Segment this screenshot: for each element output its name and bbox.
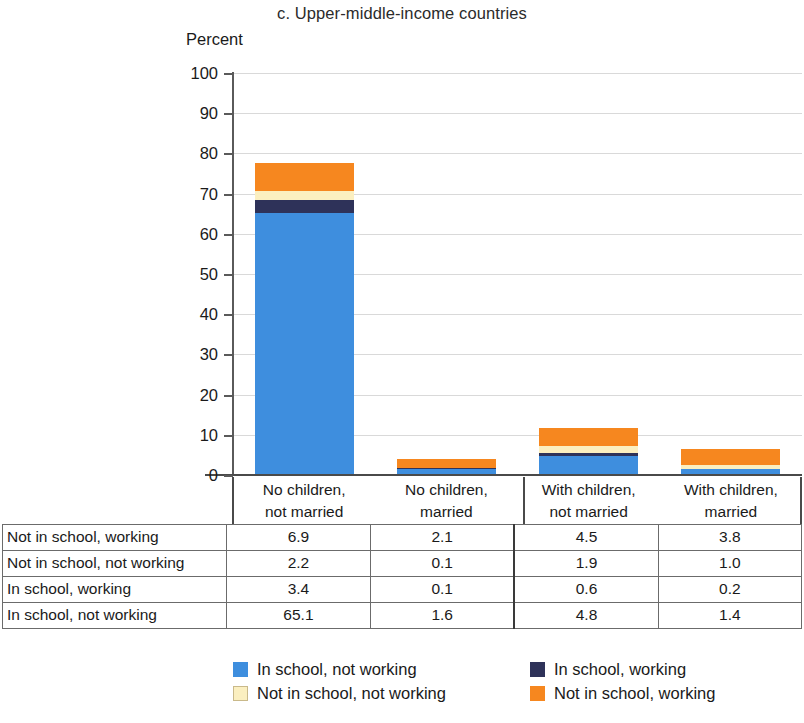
legend-item[interactable]: In school, working — [530, 660, 686, 679]
table-cell: 1.4 — [658, 603, 801, 629]
bar-segment[interactable] — [681, 449, 780, 464]
legend-swatch-icon — [233, 662, 248, 677]
bar-segment[interactable] — [397, 459, 496, 467]
bar-segment[interactable] — [539, 428, 638, 446]
category-label-line1: No children, — [233, 479, 375, 501]
y-axis-tick-label: 40 — [178, 306, 218, 323]
bar-segment[interactable] — [681, 465, 780, 469]
y-axis-tick-label: 30 — [178, 346, 218, 363]
y-axis-tick — [224, 314, 233, 316]
category-label-line2: not married — [233, 501, 375, 523]
legend-label: In school, not working — [257, 660, 417, 679]
y-axis-tick-label: 100 — [178, 65, 218, 82]
chart-legend: In school, not workingIn school, working… — [233, 660, 793, 708]
category-divider-left — [232, 477, 234, 524]
table-row: In school, working3.40.10.60.2 — [3, 577, 802, 603]
bar-segment[interactable] — [255, 200, 354, 214]
y-axis-tick-label: 60 — [178, 226, 218, 243]
table-body: Not in school, working6.92.14.53.8Not in… — [3, 525, 802, 629]
x-axis-category-2: No children,married — [375, 477, 517, 524]
legend-label: Not in school, not working — [257, 684, 446, 703]
table-cell: 6.9 — [226, 525, 370, 551]
category-divider-middle — [523, 477, 525, 524]
category-label-line1: No children, — [375, 479, 517, 501]
y-axis-tick-label: 70 — [178, 186, 218, 203]
bar-segment[interactable] — [539, 446, 638, 454]
legend-swatch-icon — [233, 686, 248, 701]
legend-item[interactable]: Not in school, not working — [233, 684, 530, 703]
category-label-line2: married — [660, 501, 802, 523]
table-cell: 3.4 — [226, 577, 370, 603]
table-cell: 3.8 — [658, 525, 801, 551]
x-axis-line — [205, 474, 802, 476]
y-axis-tick-label: 90 — [178, 105, 218, 122]
y-axis-tick — [224, 234, 233, 236]
legend-row: Not in school, not workingNot in school,… — [233, 684, 793, 703]
x-axis-category-4: With children,married — [660, 477, 802, 524]
bar-stack[interactable] — [255, 73, 354, 475]
category-label-line2: not married — [518, 501, 660, 523]
table-row: Not in school, not working2.20.11.91.0 — [3, 551, 802, 577]
table-cell: 65.1 — [226, 603, 370, 629]
bar-segment[interactable] — [255, 213, 354, 475]
y-axis-tick — [224, 354, 233, 356]
bar-segment[interactable] — [255, 163, 354, 191]
y-axis-tick — [224, 153, 233, 155]
legend-label: Not in school, working — [554, 684, 715, 703]
table-cell: 2.1 — [371, 525, 515, 551]
category-label-line1: With children, — [518, 479, 660, 501]
category-divider-right — [800, 477, 802, 524]
bar-stack[interactable] — [397, 73, 496, 475]
table-cell: 1.9 — [514, 551, 658, 577]
table-cell: 4.5 — [514, 525, 658, 551]
legend-swatch-icon — [530, 686, 545, 701]
y-axis-tick — [224, 395, 233, 397]
bar-segment[interactable] — [255, 191, 354, 200]
plot-area — [233, 73, 802, 475]
table-cell: 4.8 — [514, 603, 658, 629]
y-axis-tick — [224, 113, 233, 115]
bar-stack[interactable] — [539, 73, 638, 475]
legend-item[interactable]: In school, not working — [233, 660, 530, 679]
bar-segment[interactable] — [539, 456, 638, 475]
table-cell: 2.2 — [226, 551, 370, 577]
table-row: In school, not working65.11.64.81.4 — [3, 603, 802, 629]
y-axis-tick-label: 0 — [178, 467, 218, 484]
category-label-line2: married — [375, 501, 517, 523]
y-axis-tick — [224, 194, 233, 196]
table-cell: 1.0 — [658, 551, 801, 577]
table-cell: 0.6 — [514, 577, 658, 603]
table-cell: 0.1 — [371, 551, 515, 577]
table-row-label: Not in school, working — [3, 525, 227, 551]
y-axis-tick-label: 50 — [178, 266, 218, 283]
table-row-label: In school, working — [3, 577, 227, 603]
legend-swatch-icon — [530, 662, 545, 677]
table-cell: 1.6 — [371, 603, 515, 629]
table-cell: 0.2 — [658, 577, 801, 603]
y-axis-tick-label: 10 — [178, 427, 218, 444]
table-cell: 0.1 — [371, 577, 515, 603]
table-row-label: In school, not working — [3, 603, 227, 629]
category-label-line1: With children, — [660, 479, 802, 501]
bar-stack[interactable] — [681, 73, 780, 475]
y-axis-tick-label: 80 — [178, 145, 218, 162]
y-axis-tick — [224, 435, 233, 437]
x-axis-category-1: No children,not married — [233, 477, 375, 524]
y-axis-tick — [224, 475, 233, 477]
bar-segment[interactable] — [539, 453, 638, 455]
table-row: Not in school, working6.92.14.53.8 — [3, 525, 802, 551]
data-table: Not in school, working6.92.14.53.8Not in… — [2, 524, 802, 629]
x-axis-category-3: With children,not married — [518, 477, 660, 524]
page-title: c. Upper-middle-income countries — [0, 4, 804, 23]
y-axis-tick — [224, 274, 233, 276]
legend-row: In school, not workingIn school, working — [233, 660, 793, 679]
legend-item[interactable]: Not in school, working — [530, 684, 715, 703]
x-axis-category-labels: No children,not marriedNo children,marri… — [233, 477, 802, 524]
y-axis-tick — [224, 73, 233, 75]
table-row-label: Not in school, not working — [3, 551, 227, 577]
y-axis-title: Percent — [186, 30, 243, 49]
y-axis-tick-label: 20 — [178, 387, 218, 404]
legend-label: In school, working — [554, 660, 686, 679]
